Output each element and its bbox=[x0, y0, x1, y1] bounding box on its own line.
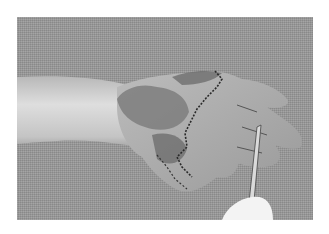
photo-illustration bbox=[17, 17, 313, 220]
gloved-hand bbox=[222, 197, 273, 220]
clinical-photo bbox=[17, 17, 313, 220]
